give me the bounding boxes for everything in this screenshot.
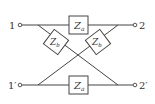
terminal-1-label: 1	[9, 20, 15, 31]
lattice-network-diagram: Za Za Zb Zb 1 2 1′ 2′	[0, 0, 155, 104]
impedance-zb-left: Zb	[43, 29, 68, 54]
terminal-1-prime: 1′	[8, 80, 22, 91]
terminal-2-label: 2	[139, 20, 145, 31]
terminal-2-prime-label: 2′	[139, 80, 148, 91]
terminal-2-prime: 2′	[133, 80, 148, 91]
impedance-za-bottom: Za	[69, 76, 88, 94]
terminal-1: 1	[9, 20, 22, 31]
terminal-1-prime-label: 1′	[8, 80, 17, 91]
impedance-za-top: Za	[69, 16, 88, 34]
terminal-2: 2	[133, 20, 145, 31]
